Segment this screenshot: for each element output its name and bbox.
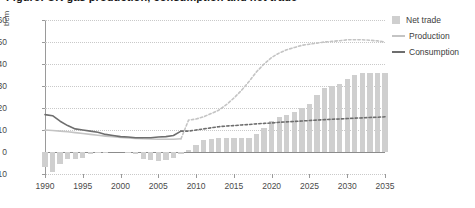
chart-figure: Figure: UK gas production, consumption a… [0,0,475,208]
legend-square-icon [392,16,400,24]
x-axis-label-1995: 1995 [63,181,103,191]
y-axis-label-60: 60 [0,16,7,25]
legend-label: Net trade [406,15,441,25]
gridline--10 [45,174,385,175]
x-tick-2025 [309,174,310,178]
x-axis-label-2000: 2000 [101,181,141,191]
legend-label: Production [409,31,450,41]
y-axis-label-0: 0 [0,148,7,157]
chart-legend: Net tradeProductionConsumption [392,12,459,60]
x-axis-label-2015: 2015 [214,181,254,191]
x-tick-2010 [196,174,197,178]
legend-item-net-trade[interactable]: Net trade [392,12,459,28]
legend-item-consumption[interactable]: Consumption [392,44,459,60]
x-axis-label-1990: 1990 [25,181,65,191]
x-tick-2005 [158,174,159,178]
x-axis-label-2035: 2035 [365,181,405,191]
consumption-line-forecast [181,117,385,131]
y-axis-label--10: -10 [0,170,7,179]
y-axis-label-20: 20 [0,104,7,113]
production-line-forecast [181,40,385,139]
x-tick-2015 [234,174,235,178]
x-axis-label-2005: 2005 [138,181,178,191]
chart-title: Figure: UK gas production, consumption a… [6,0,297,3]
x-axis-label-2020: 2020 [252,181,292,191]
legend-label: Consumption [409,47,459,57]
legend-line-icon [392,35,405,37]
x-tick-2000 [121,174,122,178]
plot-area: 6050403020100-10 19901995200020052010201… [45,20,385,174]
y-axis-label-10: 10 [0,126,7,135]
x-tick-2035 [385,174,386,178]
x-tick-1990 [45,174,46,178]
x-tick-1995 [83,174,84,178]
consumption-line-historical [45,115,181,138]
series-lines [45,20,385,174]
y-axis-label-50: 50 [0,38,7,47]
x-tick-2030 [347,174,348,178]
y-axis-label-30: 30 [0,82,7,91]
x-axis-label-2030: 2030 [327,181,367,191]
x-axis-label-2025: 2025 [289,181,329,191]
legend-item-production[interactable]: Production [392,28,459,44]
x-tick-2020 [272,174,273,178]
x-axis-label-2010: 2010 [176,181,216,191]
y-axis-label-40: 40 [0,60,7,69]
production-line-historical [45,130,181,139]
legend-line-icon [392,51,405,53]
